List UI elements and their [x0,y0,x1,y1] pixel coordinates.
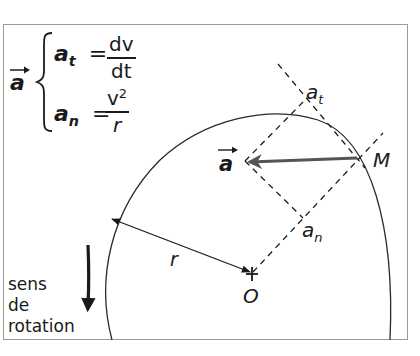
frac-num-sup: 2 [119,86,127,101]
rotation-label-line1: sens [8,274,75,295]
fraction-dv-dt: dv dt [107,34,136,82]
label-r: r [170,250,178,269]
at-sub: t [69,53,76,69]
frac-num-v: v [107,86,119,110]
label-M: M [373,150,390,170]
frac-den-r: r [111,115,123,136]
frac-num-dv: dv [107,34,136,55]
formula-vector-a: a [10,72,25,94]
curly-brace-icon [37,33,52,131]
formula-normal: an = [54,103,110,128]
parallel-to-radial-dashed [245,102,303,161]
rotation-direction-arrow [88,245,89,305]
acceleration-vector [250,158,357,162]
tangent-dashed-line [278,64,365,168]
an-base: a [54,101,69,126]
at-equals: = [89,41,107,66]
at-base: a [54,41,69,66]
parallel-to-tangent-dashed [245,161,303,218]
formula-tangential: at = [54,43,107,68]
rotation-label-line2: de [8,295,75,316]
an-sub: n [69,113,79,129]
radius-arrow [112,219,250,272]
rotation-label-line3: rotation [8,316,75,337]
label-O: O [243,286,259,306]
label-a-t: at [306,82,323,106]
label-vector-a: a [219,154,233,175]
radial-dashed-line [253,133,383,272]
frac-den-dt: dt [109,61,134,82]
fraction-v2-r: v2 r [105,87,129,136]
label-a-n: an [302,220,323,244]
rotation-direction-label: sens de rotation [8,274,75,337]
